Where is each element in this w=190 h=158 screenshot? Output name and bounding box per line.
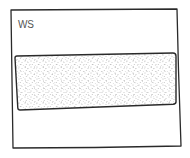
wireframe-sketch: WS	[0, 0, 190, 158]
frame-label: WS	[18, 19, 34, 30]
content-block-fill-2	[15, 53, 176, 110]
